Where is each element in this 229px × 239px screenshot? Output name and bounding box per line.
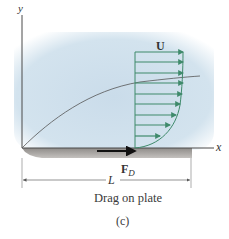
drag-force-subscript: D [128, 168, 135, 178]
length-label: L [108, 174, 115, 186]
drag-on-plate-figure: y x U FD L Drag on plate (c) [0, 0, 229, 239]
figure-caption: Drag on plate [94, 192, 162, 205]
flat-plate [22, 148, 192, 158]
drag-force-label: FD [121, 163, 135, 178]
y-axis-label: y [18, 3, 23, 14]
x-axis-label: x [216, 141, 221, 153]
figure-sublabel: (c) [116, 215, 129, 227]
free-stream-velocity-label: U [156, 40, 165, 52]
fluid-region [14, 32, 214, 150]
